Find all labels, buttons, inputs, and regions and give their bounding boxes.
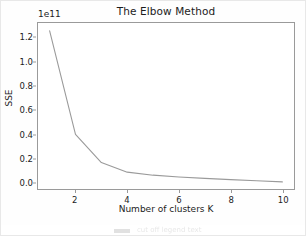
x-axis-tick-mark — [127, 190, 128, 193]
x-axis-tick-mark — [283, 190, 284, 193]
y-axis-tick-mark — [33, 158, 36, 159]
cut-off-bottom-strip: cut off legend text — [1, 225, 306, 236]
plot-area — [37, 22, 295, 190]
matplotlib-figure: The Elbow Method 1e11 SSE 0.00.20.40.60.… — [1, 1, 306, 225]
y-axis-tick-mark — [33, 61, 36, 62]
y-axis-offset-text: 1e11 — [38, 9, 61, 19]
x-axis-label: Number of clusters K — [37, 204, 295, 214]
x-axis-tick-mark — [179, 190, 180, 193]
y-axis-tick-mark — [33, 37, 36, 38]
x-axis-tick-mark — [231, 190, 232, 193]
y-axis-tick-label: 1.2 — [7, 32, 33, 42]
y-axis-tick-label: 1.0 — [7, 57, 33, 67]
page-title: The Elbow Method — [37, 5, 295, 17]
y-axis-tick-label: 0.8 — [7, 81, 33, 91]
x-axis-tick-mark — [75, 190, 76, 193]
y-axis-tick-group: 0.00.20.40.60.81.01.2 — [1, 22, 33, 190]
y-axis-tick-label: 0.4 — [7, 130, 33, 140]
y-axis-tick-mark — [33, 183, 36, 184]
y-axis-tick-label: 0.2 — [7, 154, 33, 164]
y-axis-tick-label: 0.6 — [7, 105, 33, 115]
legend-swatch-icon — [114, 229, 130, 233]
y-axis-tick-mark — [33, 134, 36, 135]
chart-screenshot: The Elbow Method 1e11 SSE 0.00.20.40.60.… — [0, 0, 306, 236]
y-axis-tick-mark — [33, 85, 36, 86]
bottom-caption: cut off legend text — [137, 226, 202, 234]
sse-line-series — [38, 23, 294, 189]
y-axis-tick-label: 0.0 — [7, 178, 33, 188]
y-axis-tick-mark — [33, 110, 36, 111]
